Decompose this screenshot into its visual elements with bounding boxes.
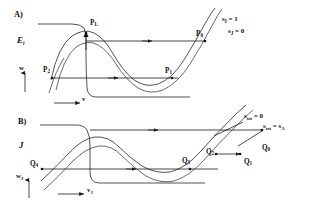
panel-b-ordinate-label: J: [18, 140, 24, 150]
point-q1-marker: [239, 153, 242, 156]
point-p0-marker: [204, 40, 207, 43]
panel-a-branch-label-2: sJ = 0: [228, 27, 245, 36]
panel-a-label: A): [14, 10, 23, 19]
figure-container: A) Ei w v: [0, 0, 316, 209]
panel-a-branch-label-1: sI = 1: [222, 15, 238, 24]
point-p2-marker: [51, 77, 54, 80]
point-q4-marker: [41, 168, 44, 171]
panel-a-v-axis-label: v: [82, 95, 86, 103]
point-p1-marker: [171, 77, 174, 80]
point-q2-marker: [215, 153, 218, 156]
point-pl-marker: [85, 32, 88, 35]
point-q3-marker: [189, 168, 192, 171]
panel-b-label: B): [18, 117, 27, 126]
figure-background: [0, 0, 316, 209]
